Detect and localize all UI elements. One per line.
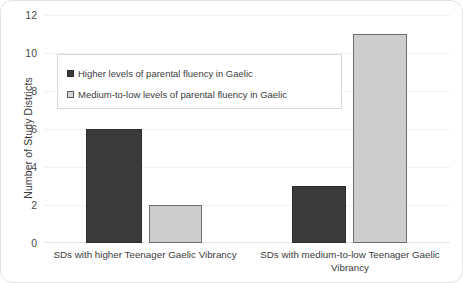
legend-item-1[interactable]: Medium-to-low levels of parental fluency… xyxy=(67,84,341,105)
bar-group0-series0[interactable] xyxy=(86,129,142,243)
y-axis-tick: 8 xyxy=(11,86,37,97)
y-axis-tick: 10 xyxy=(11,48,37,59)
bar-group1-series1[interactable] xyxy=(353,34,407,243)
gridline xyxy=(45,15,450,16)
legend-label: Higher levels of parental fluency in Gae… xyxy=(78,68,253,79)
legend-label: Medium-to-low levels of parental fluency… xyxy=(78,89,287,100)
plot-area xyxy=(45,15,450,243)
y-axis-tick: 4 xyxy=(11,162,37,173)
legend-item-0[interactable]: Higher levels of parental fluency in Gae… xyxy=(67,63,341,84)
y-axis-tick: 12 xyxy=(11,10,37,21)
y-axis-tick: 6 xyxy=(11,124,37,135)
x-axis-tick: SDs with medium-to-low Teenager Gaelic V… xyxy=(250,248,450,274)
legend-swatch-icon xyxy=(67,91,74,98)
y-axis-tick: 2 xyxy=(11,200,37,211)
chart-frame: Number of Study Districts 12 10 8 6 4 2 … xyxy=(0,0,463,283)
bar-group0-series1[interactable] xyxy=(149,205,202,243)
bar-group1-series0[interactable] xyxy=(292,186,346,243)
y-axis-tick: 0 xyxy=(11,238,37,249)
chart-legend: Higher levels of parental fluency in Gae… xyxy=(57,54,342,109)
x-axis-tick: SDs with higher Teenager Gaelic Vibrancy xyxy=(45,248,245,261)
x-axis-tick-labels: SDs with higher Teenager Gaelic Vibrancy… xyxy=(45,248,450,282)
y-axis-tick-labels: 12 10 8 6 4 2 0 xyxy=(9,15,37,243)
legend-swatch-icon xyxy=(67,70,74,77)
